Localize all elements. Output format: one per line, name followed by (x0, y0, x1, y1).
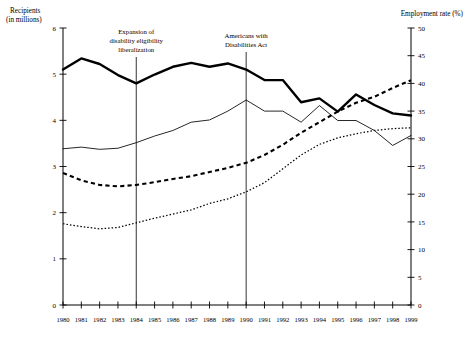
right-axis-tick-label: 40 (418, 80, 426, 88)
x-axis-tick-label: 1992 (276, 316, 289, 323)
x-axis-tick-label: 1991 (258, 316, 271, 323)
x-axis-tick-label: 1998 (386, 316, 400, 323)
right-axis-tick-label: 50 (418, 25, 426, 33)
x-axis-tick-label: 1994 (313, 316, 327, 323)
right-axis-tick-label: 35 (418, 108, 426, 116)
right-axis-tick-label: 30 (418, 135, 426, 143)
x-axis-tick-label: 1980 (56, 316, 70, 323)
right-axis-tick-label: 5 (418, 274, 422, 282)
x-axis-tick-label: 1983 (111, 316, 125, 323)
right-axis-tick-label: 25 (418, 163, 426, 171)
right-axis-tick-label: 15 (418, 219, 426, 227)
chart-svg: Recipients (in millions) Employment rate… (0, 0, 473, 341)
x-axis-tick-label: 1996 (349, 316, 363, 323)
x-axis-tick-label: 1993 (295, 316, 309, 323)
annotation-label: liberalization (118, 46, 154, 53)
left-axis-tick-label: 4 (53, 117, 57, 125)
left-axis-tick-label: 1 (53, 255, 57, 263)
x-axis-tick-label: 1989 (221, 316, 235, 323)
right-axis-tick-label: 45 (418, 52, 426, 60)
x-axis-tick-label: 1982 (93, 316, 106, 323)
right-axis-tick-label: 20 (418, 191, 426, 199)
series-line (63, 58, 411, 115)
x-axis-tick-label: 1981 (75, 316, 88, 323)
x-axis-tick-label: 1988 (203, 316, 217, 323)
series-line (63, 100, 411, 149)
annotation-label: Americans with (225, 32, 269, 39)
x-axis-tick-label: 1990 (240, 316, 254, 323)
left-axis-tick-label: 5 (53, 71, 57, 79)
annotation-label: Expansion of (118, 28, 155, 35)
chart-container: Recipients (in millions) Employment rate… (0, 0, 473, 341)
right-axis-tick-label: 0 (418, 302, 422, 310)
series-line (63, 128, 411, 229)
x-axis-tick-label: 1997 (368, 316, 382, 323)
x-axis-tick-label: 1995 (331, 316, 345, 323)
right-axis-title: Employment rate (%) (401, 10, 464, 18)
left-axis-tick-label: 0 (53, 302, 57, 310)
event-marker-lines (136, 52, 246, 305)
x-axis-tick-label: 1986 (166, 316, 180, 323)
x-axis-tick-label: 1987 (185, 316, 199, 323)
left-axis-title-line2: (in millions) (6, 16, 42, 24)
annotation-label: Disabilities Act (225, 41, 267, 48)
left-axis-title-line1: Recipients (10, 7, 41, 15)
left-axis-tick-label: 6 (53, 25, 57, 33)
x-axis-tick-label: 1999 (404, 316, 418, 323)
annotations-group: Expansion ofdisability eligibilitylibera… (110, 28, 269, 53)
annotation-label: disability eligibility (110, 37, 164, 44)
right-axis-tick-label: 10 (418, 246, 426, 254)
x-axis-tick-label: 1985 (148, 316, 162, 323)
x-axis-tick-label: 1984 (130, 316, 144, 323)
left-axis-tick-label: 2 (53, 209, 57, 217)
left-axis-tick-label: 3 (53, 163, 57, 171)
data-series-group (63, 58, 411, 228)
